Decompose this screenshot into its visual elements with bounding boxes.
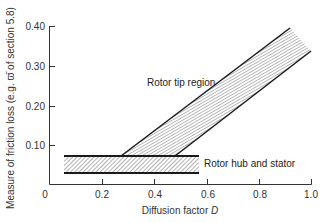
rotor-tip-region-label: Rotor tip region <box>147 77 215 88</box>
x-tick-label-0.4: 0.4 <box>148 189 162 200</box>
x-tick-label-0: 0 <box>42 189 48 200</box>
y-tick-label-0.40: 0.40 <box>26 21 46 32</box>
rotor-tip-region-band <box>121 28 311 156</box>
y-tick-label-0.30: 0.30 <box>26 61 46 72</box>
rotor-hub-stator-fill <box>64 156 199 173</box>
x-tick-label-1.0: 1.0 <box>304 189 318 200</box>
y-tick-label-0.10: 0.10 <box>26 140 46 151</box>
rotor-hub-stator-label: Rotor hub and stator <box>204 158 296 169</box>
x-axis-label-var: D <box>211 205 218 216</box>
x-axis-label-text: Diffusion factor <box>142 205 211 216</box>
x-tick-label-0.2: 0.2 <box>95 189 109 200</box>
y-axis-label: Measure of friction loss (e.g. ϖ̄ of sec… <box>5 7 16 209</box>
rotor-hub-stator-band <box>64 156 199 173</box>
x-tick-label-0.8: 0.8 <box>253 189 267 200</box>
rotor-tip-region-fill <box>121 28 311 156</box>
friction-loss-chart: 0.40 0.30 0.20 0.10 0 0.2 0.4 0.6 0.8 1.… <box>0 0 331 223</box>
x-tick-label-0.6: 0.6 <box>201 189 215 200</box>
y-tick-label-0.20: 0.20 <box>26 101 46 112</box>
x-axis-label: Diffusion factor D <box>142 205 219 216</box>
rotor-tip-upper-line <box>121 28 290 156</box>
